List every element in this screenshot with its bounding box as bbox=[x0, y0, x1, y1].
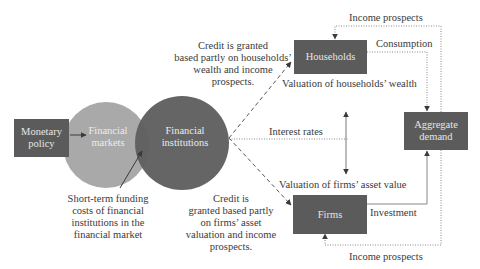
households-box: Households bbox=[294, 40, 367, 74]
firms-box: Firms bbox=[293, 195, 367, 234]
short-term-funding-label: Short-term funding costs of financial in… bbox=[52, 193, 164, 241]
monetary-policy-box: Monetary policy bbox=[14, 119, 69, 157]
investment-label: Investment bbox=[370, 207, 417, 219]
financial-institutions-label: Financial institutions bbox=[150, 125, 220, 149]
income-prospects-top-label: Income prospects bbox=[349, 12, 423, 24]
investment-line bbox=[367, 151, 427, 204]
credit-firms-label: Credit is granted based partly on firms’… bbox=[176, 193, 286, 253]
financial-markets-label: Financial markets bbox=[80, 125, 136, 149]
credit-households-label: Credit is granted based partly on househ… bbox=[168, 40, 298, 88]
valuation-firms-label: Valuation of firms’ asset value bbox=[279, 179, 407, 191]
consumption-label: Consumption bbox=[376, 38, 433, 50]
aggregate-demand-box: Aggregate demand bbox=[404, 112, 468, 150]
income-prospects-bottom-label: Income prospects bbox=[349, 251, 423, 263]
transmission-diagram: Monetary policy Households Firms Aggrega… bbox=[0, 0, 480, 269]
valuation-households-label: Valuation of households’ wealth bbox=[282, 78, 417, 90]
interest-rates-label: Interest rates bbox=[269, 126, 323, 138]
